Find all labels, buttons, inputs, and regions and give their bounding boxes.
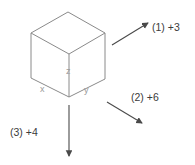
annotation-label-3: (3) +4 <box>10 127 38 138</box>
annotation-label-1: (1) +3 <box>152 22 180 33</box>
diagram-canvas: x y z (1) +3 (2) +6 (3) +4 <box>0 0 195 165</box>
cube-vertex-label-y: y <box>84 86 89 95</box>
arrow-2-down-right <box>107 102 142 123</box>
arrow-1-up-right <box>112 23 148 45</box>
cube-bottom-left-edge <box>31 78 69 97</box>
annotation-label-2: (2) +6 <box>131 92 159 103</box>
cube-top-face <box>31 12 105 54</box>
cube-vertex-label-x: x <box>40 85 45 94</box>
cube-vertex-label-z: z <box>66 67 71 76</box>
